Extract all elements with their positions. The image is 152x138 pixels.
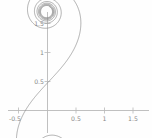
x-tick-label-1.5: 1.5	[128, 115, 138, 122]
plot-canvas: -0.5 0.5 1 1.5 0.5 1 1.5	[0, 0, 152, 138]
y-tick-label-0.5: 0.5	[34, 78, 44, 85]
x-tick-label--0.5: -0.5	[9, 115, 21, 122]
x-tick-label-0.5: 0.5	[71, 115, 81, 122]
y-tick-label-1: 1	[40, 49, 44, 56]
plot-figure: -0.5 0.5 1 1.5 0.5 1 1.5	[0, 0, 152, 138]
x-tick-label-1: 1	[103, 115, 107, 122]
